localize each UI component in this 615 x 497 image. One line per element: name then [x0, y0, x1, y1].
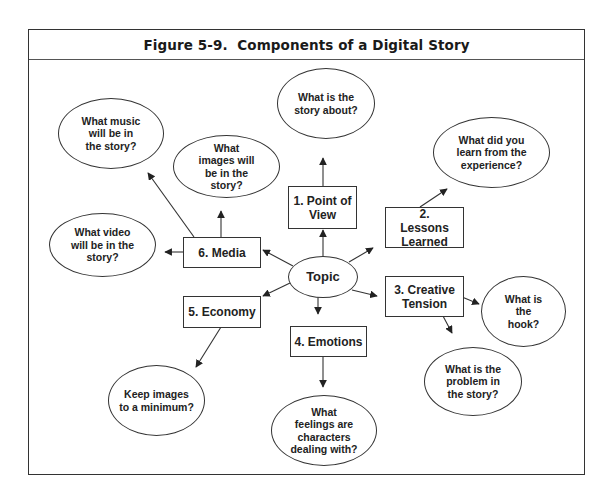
question-feelings: What feelings are characters dealing wit…: [271, 395, 377, 466]
arrow-economy-to-question: [196, 327, 221, 367]
component-creative-tension: 3. Creative Tension: [385, 276, 464, 317]
question-problem: What is the problem in the story?: [424, 347, 522, 416]
question-learn-experience: What did you learn from the experience?: [433, 117, 550, 188]
question-video: What video will be in the story?: [49, 213, 156, 277]
question-images: What images will be in the story?: [173, 135, 280, 198]
question-hook: What is the hook?: [481, 276, 566, 347]
arrow-topic-to-lessons: [349, 248, 373, 262]
arrow-topic-to-creative-tension: [352, 290, 377, 296]
question-minimum-images: Keep images to a minimum?: [108, 365, 205, 436]
component-economy: 5. Economy: [183, 296, 261, 328]
component-point-of-view: 1. Point of View: [288, 186, 357, 229]
component-lessons-learned: 2. Lessons Learned: [385, 207, 464, 248]
question-story-about: What is the story about?: [277, 68, 375, 139]
arrow-topic-to-economy: [263, 283, 290, 296]
question-music: What music will be in the story?: [58, 98, 164, 169]
arrow-topic-to-media: [263, 250, 293, 266]
topic-node: Topic: [288, 256, 358, 298]
component-emotions: 4. Emotions: [290, 326, 367, 357]
arrow-tension-to-hook: [462, 297, 479, 304]
arrow-tension-to-problem: [443, 316, 452, 333]
arrow-lessons-to-question: [420, 189, 447, 207]
component-media: 6. Media: [183, 237, 261, 268]
